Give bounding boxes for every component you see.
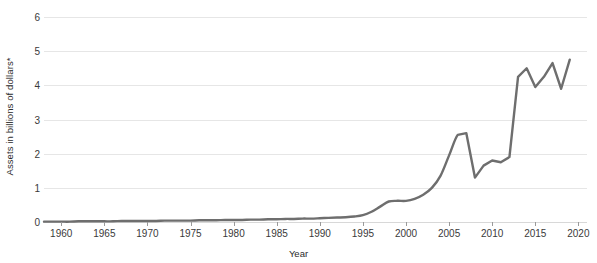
y-tick-label-2: 2	[24, 148, 40, 159]
x-tick-mark-2020	[578, 222, 579, 226]
y-axis-tick-labels: 0123456	[20, 17, 40, 222]
x-tick-label-2020: 2020	[567, 228, 589, 239]
x-tick-label-1985: 1985	[266, 228, 288, 239]
y-tick-label-5: 5	[24, 46, 40, 57]
x-tick-mark-2015	[535, 222, 536, 226]
x-tick-mark-2000	[406, 222, 407, 226]
x-tick-label-2005: 2005	[438, 228, 460, 239]
x-tick-label-1990: 1990	[309, 228, 331, 239]
x-tick-mark-2005	[449, 222, 450, 226]
x-tick-mark-1985	[277, 222, 278, 226]
x-tick-mark-1990	[320, 222, 321, 226]
x-tick-label-1980: 1980	[222, 228, 244, 239]
line-chart: Assets in billions of dollars* 0123456 1…	[0, 0, 597, 263]
x-axis-title: Year	[0, 248, 597, 259]
x-tick-label-2010: 2010	[481, 228, 503, 239]
x-tick-mark-1975	[191, 222, 192, 226]
x-tick-mark-1960	[61, 222, 62, 226]
y-tick-label-6: 6	[24, 12, 40, 23]
x-tick-mark-1980	[234, 222, 235, 226]
x-axis-title-label: Year	[289, 248, 308, 259]
x-tick-label-1970: 1970	[136, 228, 158, 239]
y-tick-label-0: 0	[24, 217, 40, 228]
plot-area	[44, 17, 587, 222]
y-axis-title: Assets in billions of dollars*	[0, 0, 18, 232]
x-tick-label-1995: 1995	[352, 228, 374, 239]
x-tick-label-2000: 2000	[395, 228, 417, 239]
y-tick-label-3: 3	[24, 114, 40, 125]
y-axis-title-label: Assets in billions of dollars*	[4, 57, 15, 175]
y-tick-label-1: 1	[24, 182, 40, 193]
x-tick-label-1960: 1960	[50, 228, 72, 239]
x-tick-mark-2010	[492, 222, 493, 226]
x-tick-mark-1965	[104, 222, 105, 226]
y-tick-label-4: 4	[24, 80, 40, 91]
x-tick-label-1975: 1975	[179, 228, 201, 239]
x-tick-label-2015: 2015	[524, 228, 546, 239]
x-tick-label-1965: 1965	[93, 228, 115, 239]
series-assets-line	[44, 17, 587, 222]
series-assets-path	[44, 60, 570, 222]
x-tick-mark-1995	[363, 222, 364, 226]
x-tick-mark-1970	[147, 222, 148, 226]
